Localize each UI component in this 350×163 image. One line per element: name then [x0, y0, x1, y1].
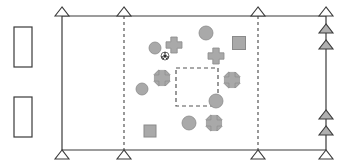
triangle-top-right-corner [319, 7, 333, 16]
side-rectangle-upper [14, 27, 32, 67]
square-2 [144, 125, 156, 137]
circle-2 [199, 26, 213, 40]
circle-3 [136, 83, 148, 95]
triangle-bottom-right-corner [319, 150, 333, 159]
schematic-svg [0, 0, 350, 163]
triangle-top-left [55, 7, 69, 16]
side-rectangle-lower [14, 97, 32, 137]
circle-4 [209, 94, 223, 108]
flower-2 [221, 69, 244, 92]
circle-5 [182, 116, 196, 130]
flower-1 [151, 67, 174, 90]
circle-1 [149, 42, 161, 54]
triangle-top-right-inner [251, 7, 265, 16]
triangle-bottom-right-inner [251, 150, 265, 159]
triangle-bottom-left [55, 150, 69, 159]
triangle-bottom-mid [117, 150, 131, 159]
triangle-right-4 [319, 126, 333, 135]
diagram-canvas [0, 0, 350, 163]
soccer-ball-1 [161, 52, 169, 60]
flower-3 [203, 112, 226, 135]
cross-1 [166, 37, 182, 53]
square-1 [233, 37, 246, 50]
triangle-top-mid [117, 7, 131, 16]
triangle-right-1 [319, 24, 333, 33]
triangle-right-3 [319, 110, 333, 119]
triangle-right-2 [319, 40, 333, 49]
cross-2 [208, 48, 224, 64]
